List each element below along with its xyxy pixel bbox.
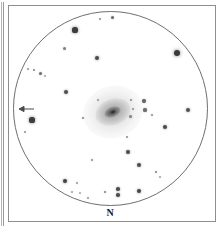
star-marker [116, 187, 120, 191]
star-marker [72, 27, 77, 32]
star-marker [39, 72, 42, 75]
star-marker [142, 99, 145, 102]
star-marker [29, 117, 34, 122]
identification-arrow-icon [18, 103, 38, 115]
eyepiece-sketch-figure: N [0, 0, 222, 229]
star-marker [64, 90, 68, 94]
star-marker [111, 16, 114, 19]
star-marker [137, 163, 141, 167]
north-indicator: N [101, 208, 119, 218]
adjacent-panel-edge [0, 2, 4, 226]
star-marker [143, 108, 146, 111]
star-marker [63, 47, 66, 50]
star-marker [44, 75, 46, 77]
star-marker [186, 108, 190, 112]
star-marker [116, 193, 120, 197]
star-marker [79, 192, 81, 194]
adjacent-panel-edge-inner [0, 2, 2, 226]
